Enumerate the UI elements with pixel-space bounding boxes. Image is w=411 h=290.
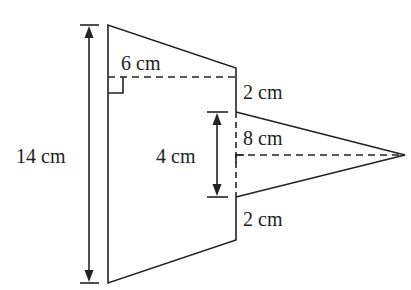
arrow-up-icon — [213, 113, 222, 125]
arrow-down-icon — [213, 184, 222, 196]
triangle-right-angle-marker — [236, 155, 244, 163]
arrow-down-icon — [85, 270, 94, 282]
label-upper-2cm: 2 cm — [243, 81, 283, 103]
label-lower-2cm: 2 cm — [243, 208, 283, 230]
dimension-14cm — [80, 25, 99, 283]
label-6cm: 6 cm — [121, 52, 161, 74]
composite-shape-diagram: 6 cm 2 cm 8 cm 4 cm 14 cm 2 cm — [0, 0, 411, 290]
label-4cm: 4 cm — [156, 145, 196, 167]
label-14cm: 14 cm — [16, 145, 66, 167]
label-8cm: 8 cm — [243, 127, 283, 149]
arrow-up-icon — [85, 26, 94, 38]
right-angle-marker — [108, 77, 123, 93]
